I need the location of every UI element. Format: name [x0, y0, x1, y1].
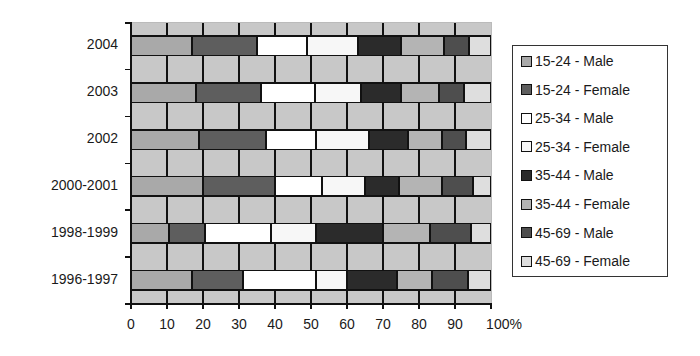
- bar-segment: [408, 130, 442, 150]
- bar-segment: [261, 83, 315, 103]
- gridline: [346, 23, 348, 304]
- legend-item: 45-69 - Male: [521, 223, 614, 243]
- bar-segment: [199, 130, 266, 150]
- bar-row: [131, 223, 491, 243]
- bar-bottom-line: [131, 289, 491, 291]
- legend-swatch-icon: [521, 256, 532, 267]
- bar-segment: [322, 176, 365, 196]
- bar-row: [131, 83, 491, 103]
- legend-label: 25-34 - Female: [535, 139, 630, 155]
- bar-row: [131, 130, 491, 150]
- category-label: 2004: [87, 36, 118, 52]
- bar-row: [131, 36, 491, 56]
- bar-segment: [266, 130, 316, 150]
- bar-segment: [401, 83, 439, 103]
- bar-segment: [275, 176, 322, 196]
- legend-item: 25-34 - Female: [521, 137, 630, 157]
- gridline: [382, 23, 384, 304]
- bar-segment: [131, 176, 203, 196]
- bar-segment: [131, 130, 199, 150]
- x-tick: [166, 303, 168, 309]
- y-tick: [125, 256, 131, 258]
- bar-segment: [131, 83, 196, 103]
- bar-segment: [365, 176, 399, 196]
- x-tick-label: 60: [339, 316, 355, 332]
- bar-bottom-line: [131, 195, 491, 197]
- x-tick-label: 90: [447, 316, 463, 332]
- bar-top-line: [131, 223, 491, 225]
- bar-segment: [432, 270, 468, 290]
- legend-item: 35-44 - Female: [521, 194, 630, 214]
- y-tick: [125, 209, 131, 211]
- bar-segment: [442, 130, 465, 150]
- bar-segment: [468, 270, 491, 290]
- legend-label: 15-24 - Male: [535, 53, 614, 69]
- bar-row: [131, 176, 491, 196]
- legend-swatch-icon: [521, 227, 532, 238]
- bar-segment: [196, 83, 261, 103]
- category-label: 1996-1997: [51, 271, 118, 287]
- bar-segment: [131, 270, 192, 290]
- legend-swatch-icon: [521, 141, 532, 152]
- bar-segment: [361, 83, 401, 103]
- y-tick: [125, 163, 131, 165]
- x-tick-label: 30: [231, 316, 247, 332]
- x-tick: [418, 303, 420, 309]
- legend-item: 15-24 - Female: [521, 80, 630, 100]
- legend-item: 35-44 - Male: [521, 165, 614, 185]
- legend-item: 25-34 - Male: [521, 108, 614, 128]
- legend-swatch-icon: [521, 199, 532, 210]
- bar-top-line: [131, 176, 491, 178]
- bar-top-line: [131, 35, 491, 37]
- bar-segment: [464, 83, 491, 103]
- x-tick-label: 20: [195, 316, 211, 332]
- x-tick-label: 0: [127, 316, 135, 332]
- stacked-bar-chart: 2004200320022000-20011998-19991996-1997 …: [0, 0, 700, 356]
- bar-segment: [316, 270, 347, 290]
- x-tick-label: 70: [375, 316, 391, 332]
- bar-segment: [316, 130, 368, 150]
- x-tick: [310, 303, 312, 309]
- x-tick-label: 50: [303, 316, 319, 332]
- bar-top-line: [131, 129, 491, 131]
- legend-swatch-icon: [521, 56, 532, 67]
- gridline: [310, 23, 312, 304]
- category-label: 1998-1999: [51, 224, 118, 240]
- plot-area: [131, 22, 492, 304]
- bar-segment: [169, 223, 205, 243]
- x-tick: [202, 303, 204, 309]
- bar-segment: [397, 270, 431, 290]
- bar-bottom-line: [131, 102, 491, 104]
- x-tick-label: 80: [411, 316, 427, 332]
- x-tick: [130, 303, 132, 309]
- legend-label: 45-69 - Female: [535, 253, 630, 269]
- legend: 15-24 - Male15-24 - Female25-34 - Male25…: [512, 45, 668, 277]
- gridline: [274, 23, 276, 304]
- x-tick: [454, 303, 456, 309]
- category-label: 2000-2001: [51, 177, 118, 193]
- bar-segment: [399, 176, 442, 196]
- bar-segment: [315, 83, 362, 103]
- bar-segment: [316, 223, 383, 243]
- bar-segment: [203, 176, 275, 196]
- bar-segment: [369, 130, 409, 150]
- bar-segment: [430, 223, 471, 243]
- bar-segment: [131, 36, 192, 56]
- bar-segment: [469, 36, 491, 56]
- bar-top-line: [131, 82, 491, 84]
- legend-label: 25-34 - Male: [535, 110, 614, 126]
- category-label: 2002: [87, 130, 118, 146]
- y-tick: [125, 116, 131, 118]
- bar-segment: [271, 223, 316, 243]
- bar-top-line: [131, 270, 491, 272]
- bar-bottom-line: [131, 149, 491, 151]
- gridline: [166, 23, 168, 304]
- bar-segment: [358, 36, 401, 56]
- bar-segment: [131, 223, 169, 243]
- bar-bottom-line: [131, 55, 491, 57]
- bar-segment: [192, 270, 242, 290]
- bar-row: [131, 270, 491, 290]
- x-tick-label: 10: [159, 316, 175, 332]
- legend-label: 35-44 - Male: [535, 167, 614, 183]
- bar-segment: [444, 36, 469, 56]
